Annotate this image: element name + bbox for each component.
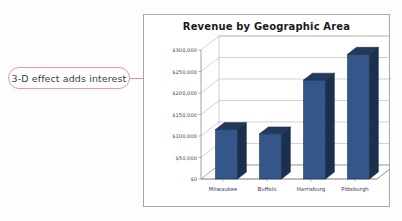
y-axis-tick-label: $300,000 <box>147 47 197 53</box>
chart-plot-area: $0$50,000$100,000$150,000$200,000$250,00… <box>144 15 390 207</box>
annotation-callout: 3-D effect adds interest <box>8 67 130 89</box>
y-axis-tick-label: $50,000 <box>147 155 197 161</box>
y-axis-tick-label: $250,000 <box>147 69 197 75</box>
x-axis-tick-label: Pittsburgh <box>325 186 385 192</box>
y-axis-tick-label: $0 <box>147 176 197 182</box>
annotation-callout-label: 3-D effect adds interest <box>12 73 127 84</box>
y-axis-tick-label: $200,000 <box>147 90 197 96</box>
y-axis-tick-label: $100,000 <box>147 133 197 139</box>
chart-container: Revenue by Geographic Area $0$50,000$100… <box>143 14 390 207</box>
y-axis-tick-label: $150,000 <box>147 112 197 118</box>
